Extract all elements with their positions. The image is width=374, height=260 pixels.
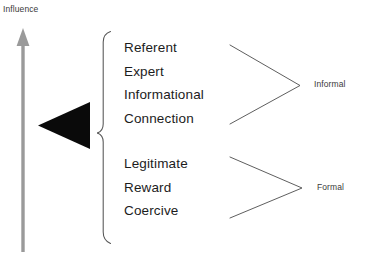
up-arrow-icon <box>17 28 30 252</box>
informal-power-list: Referent Expert Informational Connection <box>124 36 204 130</box>
list-item: Coercive <box>124 199 188 223</box>
informal-category-label: Informal <box>314 79 346 89</box>
list-item: Referent <box>124 36 204 60</box>
list-item: Expert <box>124 60 204 84</box>
formal-category-label: Formal <box>317 182 344 192</box>
converging-lines-icon <box>230 45 300 124</box>
curly-brace-icon <box>98 32 111 244</box>
formal-power-list: Legitimate Reward Coercive <box>124 152 188 223</box>
diagram-canvas: Influence Referent Expert Infor <box>0 0 374 260</box>
list-item: Informational <box>124 83 204 107</box>
list-item: Reward <box>124 176 188 200</box>
converging-lines-icon <box>230 157 302 218</box>
left-triangle-icon <box>38 102 90 149</box>
list-item: Connection <box>124 107 204 131</box>
list-item: Legitimate <box>124 152 188 176</box>
